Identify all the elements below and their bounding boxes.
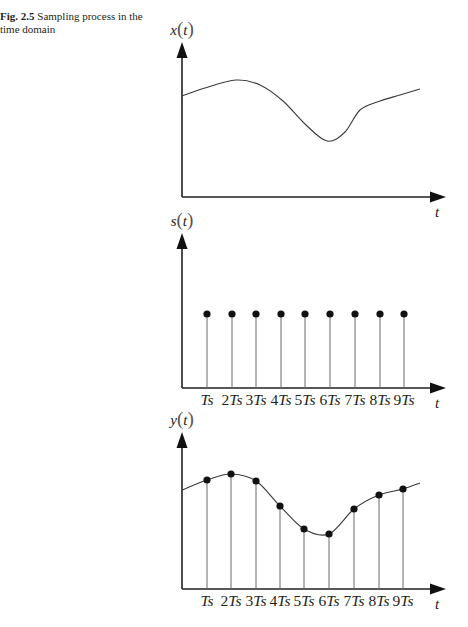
tick-label: 2Ts bbox=[222, 391, 243, 408]
tick-label: 2Ts bbox=[221, 592, 242, 609]
tick-label: 6Ts bbox=[320, 391, 341, 408]
signal-curve bbox=[182, 80, 420, 141]
sample-dot bbox=[375, 491, 382, 498]
sample-dot bbox=[203, 476, 210, 483]
sample-dot bbox=[252, 477, 259, 484]
tick-label: 8Ts bbox=[369, 592, 390, 609]
tick-label: 9Ts bbox=[393, 592, 414, 609]
sample-dot bbox=[277, 310, 284, 317]
sample-dot bbox=[252, 310, 259, 317]
sample-dot bbox=[399, 485, 406, 492]
y-axis-arrow-icon bbox=[177, 432, 188, 448]
panel-s: s(t)tTs2Ts3Ts4Ts5Ts6Ts7Ts8Ts9Ts bbox=[171, 209, 446, 411]
sample-dot bbox=[351, 310, 358, 317]
sample-dot bbox=[376, 310, 383, 317]
x-axis-label: t bbox=[435, 395, 440, 411]
sampling-figure: x(t)ts(t)tTs2Ts3Ts4Ts5Ts6Ts7Ts8Ts9Tsy(t)… bbox=[0, 0, 468, 627]
panel-y: y(t)tTs2Ts3Ts4Ts5Ts6Ts7Ts8Ts9Ts bbox=[168, 408, 446, 612]
y-axis-label: x(t) bbox=[169, 18, 194, 40]
sample-dot bbox=[228, 310, 235, 317]
svg-text:s(t): s(t) bbox=[171, 209, 194, 231]
panel-x: x(t)t bbox=[169, 18, 446, 220]
tick-label: 5Ts bbox=[294, 592, 315, 609]
sample-dot bbox=[276, 502, 283, 509]
tick-label: 4Ts bbox=[270, 592, 291, 609]
sample-dot bbox=[301, 310, 308, 317]
tick-label: 9Ts bbox=[394, 391, 415, 408]
x-axis-arrow-icon bbox=[430, 383, 446, 394]
tick-label: 4Ts bbox=[271, 391, 292, 408]
sample-dot bbox=[326, 310, 333, 317]
y-axis-arrow-icon bbox=[177, 233, 188, 249]
tick-label: 8Ts bbox=[370, 391, 391, 408]
tick-label: Ts bbox=[200, 391, 213, 408]
sample-dot bbox=[350, 505, 357, 512]
tick-label: 7Ts bbox=[344, 592, 365, 609]
x-axis-arrow-icon bbox=[430, 192, 446, 203]
sample-dot bbox=[325, 530, 332, 537]
tick-label: 3Ts bbox=[246, 391, 267, 408]
x-axis-label: t bbox=[435, 596, 440, 612]
tick-label: Ts bbox=[200, 592, 213, 609]
x-axis-label: t bbox=[435, 204, 440, 220]
sample-dot bbox=[203, 310, 210, 317]
svg-text:x(t): x(t) bbox=[169, 18, 194, 40]
tick-label: 6Ts bbox=[319, 592, 340, 609]
y-axis-label: y(t) bbox=[168, 408, 194, 430]
tick-label: 3Ts bbox=[246, 592, 267, 609]
y-axis-label: s(t) bbox=[171, 209, 194, 231]
tick-label: 7Ts bbox=[345, 391, 366, 408]
svg-text:y(t): y(t) bbox=[168, 408, 194, 430]
x-axis-arrow-icon bbox=[430, 584, 446, 595]
y-axis-arrow-icon bbox=[177, 42, 188, 58]
sample-dot bbox=[400, 310, 407, 317]
tick-label: 5Ts bbox=[295, 391, 316, 408]
sample-dot bbox=[227, 470, 234, 477]
sample-dot bbox=[300, 525, 307, 532]
signal-curve bbox=[182, 474, 420, 535]
